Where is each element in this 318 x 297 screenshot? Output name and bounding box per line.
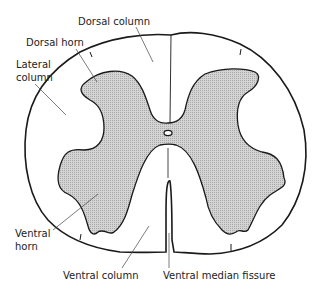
- label-dorsal-horn: Dorsal horn: [26, 37, 84, 48]
- label-dorsal-column: Dorsal column: [78, 16, 150, 27]
- label-ventral-column: Ventral column: [63, 270, 138, 281]
- label-ventral-horn-line2: horn: [15, 241, 38, 252]
- label-lateral-column-line2: column: [16, 72, 53, 83]
- label-ventral-horn-line1: Ventral: [15, 228, 51, 239]
- label-ventral-median-fissure: Ventral median fissure: [163, 270, 275, 281]
- central-canal: [164, 130, 172, 135]
- label-lateral-column-line1: Lateral: [16, 59, 51, 70]
